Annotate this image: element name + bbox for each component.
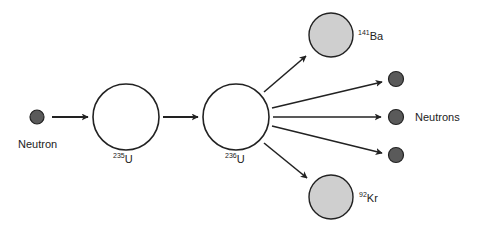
u235-symbol: U xyxy=(125,153,133,165)
u236-label: 236U xyxy=(225,154,245,165)
arrow-u236-to-neutron-1 xyxy=(272,82,382,108)
outgoing-neutron-1 xyxy=(389,72,404,87)
ba141-label: 141Ba xyxy=(358,31,383,42)
ba141-mass-number: 141 xyxy=(358,29,370,36)
arrow-u236-to-ba141 xyxy=(264,56,306,92)
u235-label: 235U xyxy=(113,154,133,165)
ba141-symbol: Ba xyxy=(370,30,383,42)
ba141-fragment xyxy=(309,13,353,57)
incoming-neutron xyxy=(30,110,44,124)
arrow-u236-to-kr92 xyxy=(264,143,307,178)
u236-symbol: U xyxy=(237,153,245,165)
u235-mass-number: 235 xyxy=(113,152,125,159)
u236-mass-number: 236 xyxy=(225,152,237,159)
kr92-label: 92Kr xyxy=(359,193,378,204)
kr92-symbol: Kr xyxy=(367,192,378,204)
u236-nucleus xyxy=(203,84,269,150)
fission-diagram xyxy=(0,0,478,233)
u235-nucleus xyxy=(93,84,159,150)
outgoing-neutron-2 xyxy=(389,110,404,125)
neutrons-label: Neutrons xyxy=(415,112,460,123)
neutron-label: Neutron xyxy=(18,139,57,150)
kr92-mass-number: 92 xyxy=(359,191,367,198)
arrow-u236-to-neutron-3 xyxy=(272,126,382,153)
kr92-fragment xyxy=(309,175,353,219)
outgoing-neutron-3 xyxy=(389,148,404,163)
